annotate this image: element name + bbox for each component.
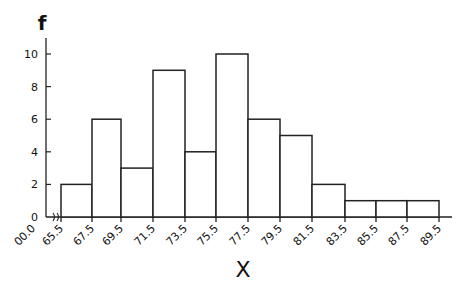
histogram-bar — [376, 201, 407, 217]
x-tick-label: 00.0 — [12, 222, 39, 249]
histogram-bar — [153, 70, 185, 217]
histogram-bar — [92, 119, 121, 217]
x-tick-label: 79.5 — [259, 222, 286, 249]
x-tick-label: 77.5 — [227, 222, 254, 249]
x-tick-label: 69.5 — [100, 222, 127, 249]
x-tick-label: 85.5 — [355, 222, 382, 249]
histogram-bar — [345, 201, 376, 217]
x-axis-title: X — [235, 257, 250, 282]
x-tick-label: 83.5 — [324, 222, 351, 249]
x-tick-label: 75.5 — [195, 222, 222, 249]
x-tick-label: 73.5 — [164, 222, 191, 249]
x-tick-label: 67.5 — [71, 222, 98, 249]
y-tick-label: 4 — [31, 146, 38, 159]
y-tick-label: 2 — [31, 178, 38, 191]
histogram-bar — [216, 54, 248, 217]
x-tick-label: 65.5 — [40, 222, 67, 249]
histogram-bar — [121, 168, 153, 217]
histogram-bar — [407, 201, 439, 217]
y-tick-label: 6 — [31, 113, 38, 126]
y-tick-label: 8 — [31, 81, 38, 94]
histogram-bar — [280, 136, 312, 218]
x-tick-label: 71.5 — [132, 222, 159, 249]
histogram-chart: 0246810f00.065.567.569.571.573.575.577.5… — [0, 0, 470, 290]
y-tick-label: 10 — [24, 48, 38, 61]
x-tick-label: 89.5 — [418, 222, 445, 249]
histogram-bar — [185, 152, 216, 217]
y-tick-label: 0 — [31, 211, 38, 224]
x-tick-label: 87.5 — [386, 222, 413, 249]
x-tick-label: 81.5 — [291, 222, 318, 249]
y-axis-title: f — [38, 11, 47, 35]
histogram-bar — [312, 184, 345, 217]
histogram-bar — [61, 184, 92, 217]
histogram-bar — [248, 119, 280, 217]
